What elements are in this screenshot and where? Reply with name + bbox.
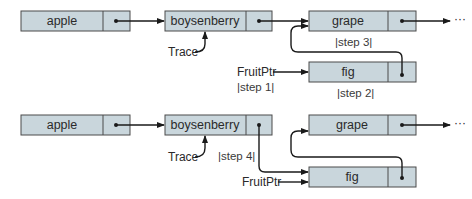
top-trace-label: Trace [168, 45, 199, 59]
bottom-node-boysenberry: boysenberry [165, 115, 272, 135]
top-node-apple-label: apple [47, 14, 78, 28]
bottom-fruitptr-label: FruitPtr [242, 175, 281, 189]
top-node-fig-label: fig [341, 65, 354, 79]
bottom-node-boysenberry-label: boysenberry [171, 118, 241, 132]
top-node-apple: apple [21, 11, 130, 31]
bottom-step4-label: |step 4| [218, 150, 255, 162]
top-step1-label: |step 1| [237, 81, 274, 93]
bottom-node-fig-label: fig [345, 170, 358, 184]
top-node-grape-label: grape [332, 14, 364, 28]
top-node-grape: grape [309, 11, 416, 31]
bottom-node-apple-label: apple [47, 118, 78, 132]
bottom-node-grape-label: grape [336, 118, 368, 132]
bottom-trace-label: Trace [168, 150, 199, 164]
bottom-node-apple: apple [21, 115, 130, 135]
top-diagram: apple boysenberry Trace grape ··· |step … [21, 11, 466, 99]
top-node-fig: fig [309, 62, 416, 82]
top-fruitptr-label: FruitPtr [237, 65, 276, 79]
top-node-boysenberry: boysenberry [165, 11, 272, 31]
bottom-diagram: apple boysenberry Trace |step 4| grape ·… [21, 115, 466, 189]
bottom-continuation-ellipsis: ··· [454, 116, 466, 130]
bottom-node-grape: grape [309, 115, 416, 135]
linked-list-insertion-diagram: apple boysenberry Trace grape ··· |step … [0, 0, 472, 199]
bottom-node-fig: fig [309, 167, 416, 187]
top-node-boysenberry-label: boysenberry [171, 14, 241, 28]
top-continuation-ellipsis: ··· [454, 12, 466, 26]
top-step2-label: |step 2| [337, 87, 374, 99]
top-step3-label: |step 3| [335, 36, 372, 48]
